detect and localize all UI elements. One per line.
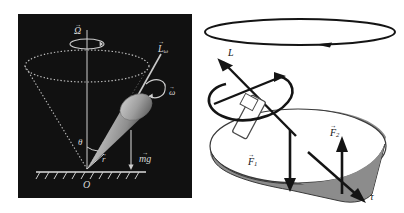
left-dark-top-panel: Ω Lω ω θ r mg O — [18, 14, 192, 198]
label-F1-glyph: F — [248, 156, 254, 167]
precession-ellipse-arrowhead — [316, 43, 332, 48]
spin-curved-arrow — [146, 80, 165, 98]
right-gyroscope-panel: L F1 F2 τ — [196, 4, 404, 213]
weight-arrowhead — [128, 165, 133, 171]
precession-ellipse-with-arrow — [205, 19, 395, 45]
left-panel-graphics — [18, 14, 192, 198]
label-radius-r: r — [102, 155, 106, 164]
ground-hatching — [36, 172, 139, 179]
label-origin-O: O — [83, 180, 90, 190]
label-angular-momentum-L: Lω — [158, 44, 168, 55]
label-weight-mg: mg — [139, 154, 151, 164]
angle-arc — [87, 147, 98, 151]
label-F1-subscript: 1 — [254, 160, 257, 167]
label-spin-omega: ω — [169, 88, 175, 97]
label-L-subscript: ω — [164, 47, 169, 54]
label-L-glyph: L — [158, 43, 164, 54]
label-precession-omega: Ω — [74, 26, 81, 36]
label-angle-theta: θ — [78, 138, 82, 147]
label-force-one: F1 — [248, 157, 257, 168]
figure-root: Ω Lω ω θ r mg O — [0, 0, 404, 213]
label-force-two: F2 — [330, 128, 339, 139]
label-F2-subscript: 2 — [336, 131, 339, 138]
label-torque-tau: τ — [370, 192, 374, 202]
right-panel-graphics — [196, 4, 404, 213]
label-F2-glyph: F — [330, 127, 336, 138]
label-right-L: L — [228, 48, 234, 58]
